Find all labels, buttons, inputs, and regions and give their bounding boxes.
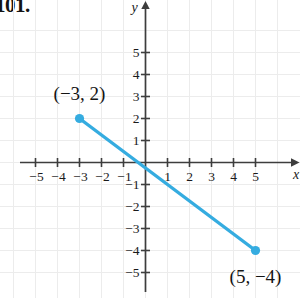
y-tick-label: −1 xyxy=(125,177,139,193)
y-tick-label: 5 xyxy=(133,45,140,61)
x-axis-label: x xyxy=(293,167,299,183)
y-tick-label: 3 xyxy=(133,89,140,105)
x-tick-label: 2 xyxy=(186,169,193,185)
y-tick-label: 2 xyxy=(133,111,140,127)
y-axis-label: y xyxy=(132,0,138,16)
x-tick-label: −4 xyxy=(51,169,65,185)
x-tick-label: 1 xyxy=(164,169,171,185)
x-tick-label: 3 xyxy=(208,169,215,185)
data-point xyxy=(251,246,260,255)
data-point xyxy=(75,114,84,123)
x-tick-label: 5 xyxy=(252,169,259,185)
point-coordinate-label: (5, −4) xyxy=(230,266,282,288)
x-axis-arrowhead xyxy=(291,158,300,166)
coordinate-plane xyxy=(0,0,300,298)
x-tick-label: −3 xyxy=(73,169,87,185)
y-tick-label: −5 xyxy=(125,265,139,281)
y-tick-label: −2 xyxy=(125,199,139,215)
x-tick-label: −2 xyxy=(95,169,109,185)
x-tick-label: 4 xyxy=(230,169,237,185)
y-tick-label: −4 xyxy=(125,243,139,259)
point-coordinate-label: (−3, 2) xyxy=(54,83,106,105)
y-tick-label: −3 xyxy=(125,221,139,237)
x-tick-label: −5 xyxy=(29,169,43,185)
figure-container: 101. −5−4−3−2−112345 54321−1−2−3−4−5 y x… xyxy=(0,0,300,298)
y-tick-label: 1 xyxy=(133,133,140,149)
y-axis-arrowhead xyxy=(141,1,149,9)
y-tick-label: 4 xyxy=(133,67,140,83)
coordinate-plane-svg xyxy=(0,0,300,298)
